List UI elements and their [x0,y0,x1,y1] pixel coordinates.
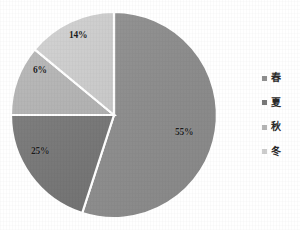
legend-label-spring: 春 [271,73,281,83]
legend-item-autumn[interactable]: 秋 [262,115,300,140]
legend-label-winter: 冬 [271,147,281,157]
legend-label-autumn: 秋 [271,122,281,132]
data-label-autumn: 6% [33,66,47,76]
data-label-winter: 14% [69,31,87,41]
pie-svg [0,0,240,230]
legend-swatch-icon-autumn [262,125,267,130]
legend-swatch-icon-summer [262,100,267,105]
pie-plot-area: 55% 25% 6% 14% [0,0,240,230]
pie-chart-figure: 55% 25% 6% 14% 春 夏 秋 冬 [0,0,300,230]
legend-swatch-icon-spring [262,76,267,81]
legend-item-spring[interactable]: 春 [262,66,300,91]
legend-label-summer: 夏 [271,98,281,108]
data-label-summer: 25% [31,147,49,157]
data-label-spring: 55% [175,128,193,138]
legend-item-summer[interactable]: 夏 [262,91,300,116]
legend-swatch-icon-winter [262,149,267,154]
legend-item-winter[interactable]: 冬 [262,140,300,165]
chart-legend: 春 夏 秋 冬 [262,66,300,164]
